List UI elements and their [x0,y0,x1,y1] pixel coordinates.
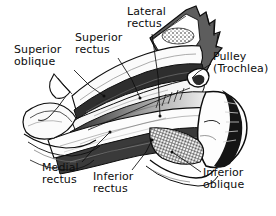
anatomical-figure: Superior oblique Superior rectus Lateral… [0,0,276,216]
label-pulley-trochlea: Pulley (Trochlea) [213,51,268,75]
label-superior-oblique: Superior oblique [14,44,61,68]
label-medial-rectus: Medial rectus [42,162,79,186]
label-inferior-rectus: Inferior rectus [93,171,134,195]
label-lateral-rectus: Lateral rectus [127,6,166,30]
label-superior-rectus: Superior rectus [75,32,122,56]
label-inferior-oblique: Inferior oblique [203,167,244,191]
